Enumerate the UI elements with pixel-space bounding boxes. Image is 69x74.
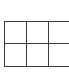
table-cell[interactable]: [49, 22, 69, 43]
table-cell[interactable]: [5, 44, 26, 66]
table-cell[interactable]: [27, 22, 48, 43]
table-cell[interactable]: [27, 44, 48, 66]
table-canvas: [0, 0, 69, 74]
table-caption: [0, 11, 69, 18]
table-cell[interactable]: [5, 22, 26, 43]
empty-table-grid: [4, 21, 69, 67]
table-bottom-border: [4, 66, 69, 67]
table-cell[interactable]: [49, 44, 69, 66]
